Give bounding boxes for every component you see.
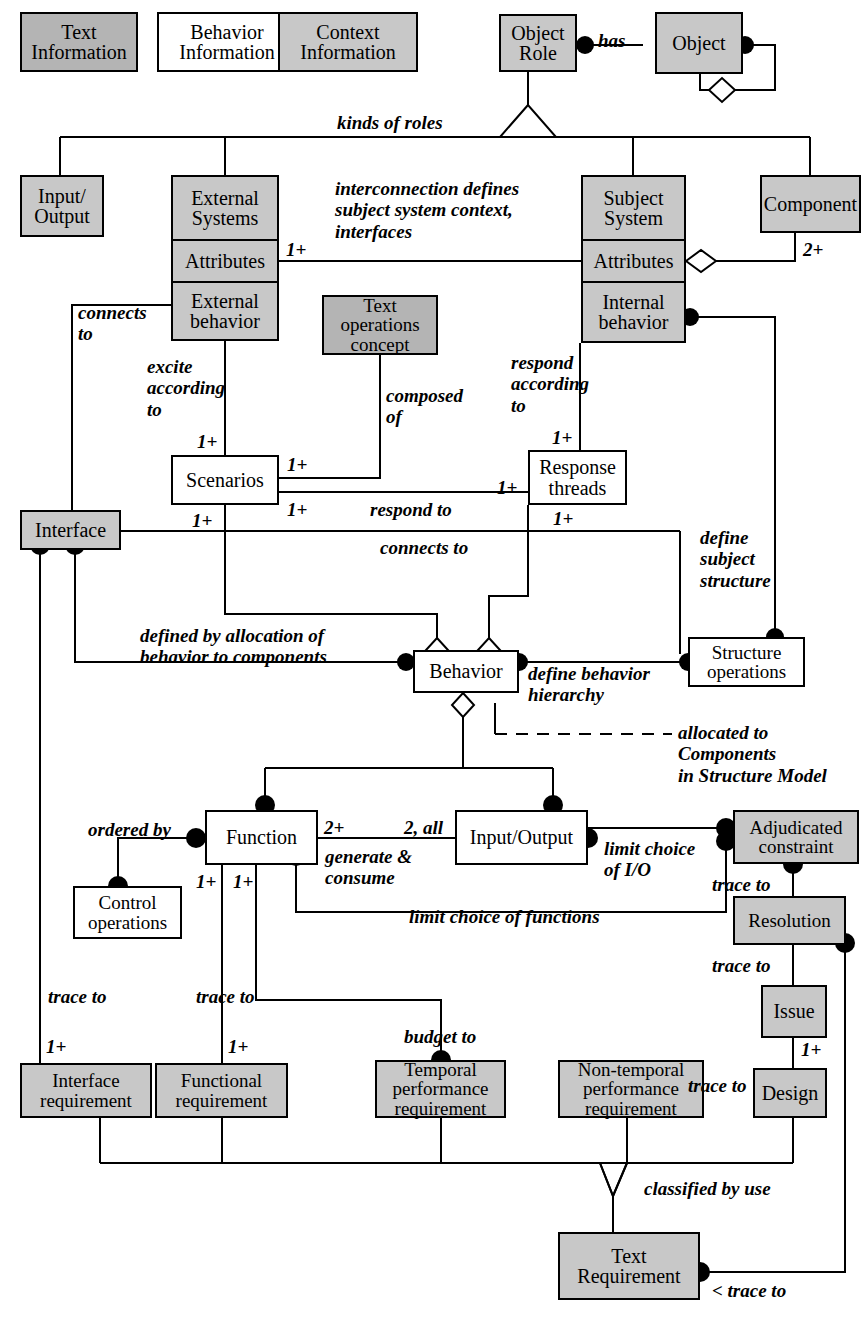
edge-label-define-subject-structure: define subject structure: [700, 527, 771, 591]
edge-label-classified-by-use: classified by use: [644, 1178, 771, 1199]
edge-label-trace-to-functional: trace to: [196, 986, 255, 1007]
multiplicity-function-bottom-left: 1+: [196, 872, 216, 891]
node-scenarios: Scenarios: [171, 455, 279, 505]
node-functional-requirement: Functional requirement: [155, 1063, 288, 1118]
edge-label-kinds-of-roles: kinds of roles: [337, 112, 443, 133]
edge-label-define-behavior-hierarchy: define behavior hierarchy: [528, 663, 650, 706]
edge-label-interconnection: interconnection defines subject system c…: [335, 178, 519, 242]
edge-label-limit-choice-of-functions: limit choice of functions: [409, 906, 600, 927]
multiplicity-io-left: 2, all: [404, 818, 443, 837]
multiplicity-response-threads-bottom: 1+: [553, 509, 573, 528]
edge-label-composed-of: composed of: [386, 385, 463, 428]
external-systems-attributes: Attributes: [173, 239, 277, 281]
node-input-output-top: Input/ Output: [20, 175, 104, 237]
subject-system-attributes: Attributes: [583, 239, 684, 281]
node-non-temporal-performance-requirement: Non-temporal performance requirement: [558, 1060, 704, 1118]
node-text-operations-concept: Text operations concept: [322, 295, 438, 355]
node-control-operations: Control operations: [73, 886, 182, 939]
edge-label-limit-choice-of-io: limit choice of I/O: [604, 838, 695, 881]
node-external-systems: External Systems Attributes External beh…: [171, 175, 279, 341]
edge-label-trace-to-issue: trace to: [688, 1075, 747, 1096]
multiplicity-interface-requirement: 1+: [46, 1037, 66, 1056]
edge-label-connects-to-mid: connects to: [380, 537, 468, 558]
edge-label-allocated-to-components: allocated to Components in Structure Mod…: [678, 722, 861, 786]
multiplicity-component: 2+: [803, 240, 823, 259]
multiplicity-response-threads-top: 1+: [552, 428, 572, 447]
legend-behavior-information: Behavior Information: [157, 12, 297, 72]
node-object: Object: [655, 12, 743, 74]
multiplicity-scenarios-respond: 1+: [287, 500, 307, 519]
node-structure-operations: Structure operations: [688, 637, 805, 687]
multiplicity-external-attributes: 1+: [286, 240, 306, 259]
multiplicity-scenarios-top: 1+: [197, 432, 217, 451]
node-input-output-mid: Input/Output: [455, 810, 588, 865]
edge-label-ordered-by: ordered by: [88, 819, 171, 840]
external-systems-name: External Systems: [173, 177, 277, 239]
node-interface: Interface: [20, 510, 121, 550]
edge-label-defined-by-allocation: defined by allocation of behavior to com…: [140, 625, 327, 668]
legend-text-information: Text Information: [20, 12, 138, 72]
edge-label-trace-to-text-requirement: < trace to: [712, 1280, 786, 1301]
node-temporal-performance-requirement: Temporal performance requirement: [375, 1060, 506, 1118]
edge-label-trace-to-resolution: trace to: [712, 955, 771, 976]
edge-label-respond-to: respond to: [370, 499, 452, 520]
multiplicity-issue-design: 1+: [801, 1040, 821, 1059]
node-response-threads: Response threads: [528, 450, 627, 505]
external-systems-behavior: External behavior: [173, 281, 277, 339]
legend-context-information: Context Information: [278, 12, 418, 72]
edge-label-excite-according-to: excite according to: [147, 356, 225, 420]
edge-label-budget-to: budget to: [404, 1026, 476, 1047]
edge-label-connects-to-left: connects to: [78, 302, 147, 345]
edge-label-has: has: [598, 30, 625, 51]
multiplicity-function-right: 2+: [324, 818, 344, 837]
node-subject-system: Subject System Attributes Internal behav…: [581, 175, 686, 343]
subject-system-internal-behavior: Internal behavior: [583, 281, 684, 341]
uml-information-model-diagram: Text Information Behavior Information Co…: [0, 0, 861, 1330]
node-interface-requirement: Interface requirement: [20, 1063, 152, 1118]
node-function: Function: [205, 810, 318, 865]
multiplicity-functional-requirement: 1+: [228, 1037, 248, 1056]
multiplicity-response-threads-left: 1+: [497, 478, 517, 497]
subject-system-name: Subject System: [583, 177, 684, 239]
edge-label-trace-to-interface: trace to: [48, 986, 107, 1007]
node-design: Design: [753, 1068, 827, 1118]
node-issue: Issue: [761, 985, 827, 1038]
node-resolution: Resolution: [733, 896, 846, 945]
multiplicity-scenarios-right-top: 1+: [287, 455, 307, 474]
edge-label-generate-consume: generate & consume: [325, 846, 412, 889]
multiplicity-scenarios-bottom: 1+: [192, 511, 212, 530]
edge-label-respond-according-to: respond according to: [511, 352, 589, 416]
node-adjudicated-constraint: Adjudicated constraint: [733, 810, 859, 864]
node-component: Component: [760, 175, 861, 233]
node-behavior: Behavior: [413, 650, 519, 693]
node-text-requirement: Text Requirement: [558, 1232, 700, 1300]
edge-label-trace-to-adjudicated: trace to: [712, 874, 771, 895]
node-object-role: Object Role: [499, 14, 577, 72]
multiplicity-function-bottom-right: 1+: [233, 872, 253, 891]
